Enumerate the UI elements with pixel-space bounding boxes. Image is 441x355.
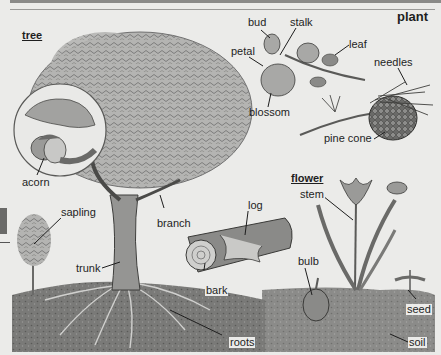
plant-illustration: [0, 0, 441, 355]
label-stalk: stalk: [290, 17, 313, 28]
label-roots: roots: [229, 337, 255, 348]
label-needles: needles: [374, 57, 413, 68]
label-bud: bud: [248, 17, 266, 28]
label-stem: stem: [299, 189, 325, 200]
section-heading-tree: tree: [22, 30, 42, 41]
label-log: log: [247, 200, 264, 211]
sapling-illustration: [17, 214, 51, 295]
label-pine-cone: pine cone: [324, 133, 372, 144]
label-bulb: bulb: [297, 256, 320, 267]
label-sapling: sapling: [60, 207, 97, 218]
page-title: plant: [397, 10, 428, 23]
label-blossom: blossom: [249, 107, 290, 118]
label-petal: petal: [231, 46, 255, 57]
log-illustration: [186, 218, 292, 272]
label-branch: branch: [156, 218, 192, 229]
label-acorn: acorn: [21, 177, 51, 188]
label-seed: seed: [406, 304, 432, 315]
section-heading-flower: flower: [291, 173, 323, 184]
seedling-illustration: [395, 270, 425, 292]
label-bark: bark: [205, 285, 228, 296]
label-leaf: leaf: [349, 39, 367, 50]
label-trunk: trunk: [75, 263, 101, 274]
bulb-illustration: [303, 278, 329, 321]
acorn-inset: [14, 84, 106, 176]
flower-illustration: [318, 178, 407, 290]
label-soil: soil: [408, 337, 427, 348]
tree-trunk: [110, 195, 140, 290]
